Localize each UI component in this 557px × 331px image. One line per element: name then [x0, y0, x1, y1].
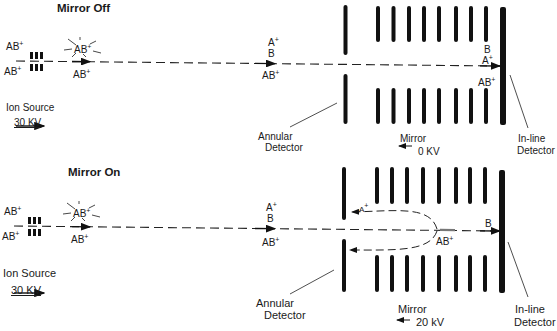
- mirror-plates: [375, 167, 487, 292]
- mirror-voltage: 20 kV: [416, 317, 444, 328]
- fragment-a-label: A+: [266, 202, 277, 213]
- turning-point-ion-label: AB+: [436, 236, 453, 247]
- inline-detector-label-2: Detector: [514, 317, 556, 328]
- parent-ion-label: AB+: [262, 70, 279, 81]
- detector-b-label: B: [485, 218, 492, 229]
- mirror-on-title: Mirror On: [68, 167, 120, 178]
- collision-ion-label: AB+: [74, 44, 91, 55]
- source-ion-label-upper: AB+: [6, 41, 23, 52]
- annular-detector-label-1: Annular: [256, 298, 294, 309]
- annular-detector-label-2: Detector: [265, 142, 303, 153]
- reflected-ion-path-lower: [350, 231, 437, 250]
- source-voltage: 30 KV: [14, 117, 41, 128]
- inline-detector-label-1: In-line: [515, 304, 545, 315]
- mirror-plates: [376, 6, 488, 124]
- annular-detector-label-1: Annular: [258, 131, 292, 142]
- transmitted-ion-label: AB+: [71, 234, 88, 245]
- fragment-a-label: A+: [268, 37, 279, 48]
- collision-ion-label: AB+: [73, 208, 90, 219]
- transmitted-ion-label: AB+: [73, 69, 90, 80]
- inline-detector: [499, 170, 505, 293]
- mirror-label: Mirror: [398, 304, 427, 315]
- source-voltage: 30 KV: [11, 285, 41, 296]
- mirror-label: Mirror: [400, 133, 426, 144]
- inline-detector: [500, 7, 506, 125]
- reflected-ion-label: A+: [359, 204, 368, 215]
- source-ion-label-lower: AB+: [2, 231, 19, 242]
- fragment-b-label: B: [268, 48, 275, 59]
- source-ion-label-lower: AB+: [4, 66, 21, 77]
- detector-ab-label: AB+: [478, 77, 495, 88]
- detector-a-label: A+: [482, 55, 493, 66]
- source-ion-label-upper: AB+: [4, 206, 21, 217]
- fragment-b-label: B: [267, 213, 274, 224]
- inline-detector-label-2: Detector: [517, 145, 555, 156]
- mirror-off-title: Mirror Off: [57, 3, 110, 14]
- inline-detector-label-1: In-line: [518, 133, 545, 144]
- ion-source-label: Ion Source: [3, 268, 56, 279]
- parent-ion-label: AB+: [262, 237, 279, 248]
- annular-detector-label-2: Detector: [264, 310, 306, 321]
- ion-source-label: Ion Source: [6, 102, 54, 113]
- mirror-voltage: 0 KV: [418, 146, 440, 157]
